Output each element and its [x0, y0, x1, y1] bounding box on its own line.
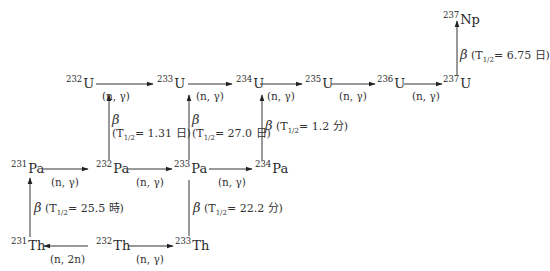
nuclide-th231: 231Th [11, 239, 45, 252]
reaction-label-u236-u237: (n, γ) [412, 91, 440, 102]
nuclide-pa232: 232Pa [96, 162, 129, 175]
nuclide-th232: 232Th [96, 239, 130, 252]
nuclide-pa234: 234Pa [255, 162, 288, 175]
reaction-label-u235-u236: (n, γ) [339, 91, 367, 102]
decay-label-th233-pa233: β (T1/2= 22.2 分) [193, 201, 283, 217]
decay-label-u237-np237: β (T1/2= 6.75 日) [460, 48, 550, 64]
decay-label-th231-pa231: β (T1/2= 25.5 時) [34, 201, 124, 217]
nuclide-u237: 237U [443, 77, 471, 90]
nuclide-th233: 233Th [175, 239, 209, 252]
nuclide-u233: 233U [157, 77, 185, 90]
reaction-label-pa231-pa232: (n, γ) [51, 177, 79, 188]
reaction-label-th232-th231: (n, 2n) [50, 254, 85, 265]
decay-label-pa233-u233: β (T1/2= 27.0 日) [192, 113, 271, 142]
reaction-label-u234-u235: (n, γ) [267, 91, 295, 102]
nuclide-u232: 232U [66, 77, 94, 90]
reaction-label-th232-th233: (n, γ) [136, 254, 164, 265]
nuclide-u234: 234U [236, 77, 264, 90]
nuclide-u235: 235U [305, 77, 333, 90]
nuclide-pa233: 233Pa [174, 162, 207, 175]
reaction-label-pa232-pa233: (n, γ) [136, 177, 164, 188]
reaction-label-pa233-pa234: (n, γ) [218, 177, 246, 188]
decay-label-pa234-u234: β (T1/2= 1.2 分) [265, 119, 348, 135]
nuclide-u236: 236U [377, 77, 405, 90]
reaction-label-u232-u233: (n, γ) [102, 91, 130, 102]
reaction-label-u233-u234: (n, γ) [196, 91, 224, 102]
nuclide-pa231: 231Pa [11, 162, 44, 175]
decay-label-pa232-u232: β (T1/2= 1.31 日) [112, 113, 191, 142]
nuclide-np237: 237Np [443, 13, 480, 26]
